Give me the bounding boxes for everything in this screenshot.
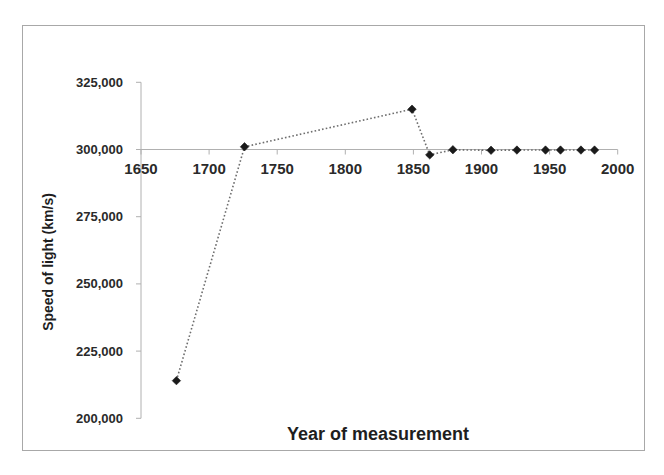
data-point-diamond-icon [426,151,434,159]
x-axis: 16501700175018001850190019502000 [124,150,634,177]
data-point-diamond-icon [541,146,549,154]
x-axis-title: Year of measurement [287,424,469,444]
y-tick-label: 250,000 [76,276,123,291]
y-axis: 200,000225,000250,000275,000300,000325,0… [76,75,141,426]
y-tick-label: 300,000 [76,142,123,157]
x-tick-label: 1950 [533,160,566,177]
x-tick-label: 1700 [192,160,225,177]
x-tick-label: 1800 [329,160,362,177]
data-point-diamond-icon [172,376,180,384]
data-point-diamond-icon [408,105,416,113]
data-point-diamond-icon [487,146,495,154]
x-tick-label: 1850 [397,160,430,177]
series-markers [172,105,599,385]
y-tick-label: 275,000 [76,209,123,224]
data-point-diamond-icon [449,146,457,154]
x-tick-label: 2000 [601,160,634,177]
speed-of-light-chart: 200,000225,000250,000275,000300,000325,0… [0,0,664,475]
x-tick-label: 1750 [261,160,294,177]
data-point-diamond-icon [577,146,585,154]
x-tick-label: 1900 [465,160,498,177]
data-point-diamond-icon [556,146,564,154]
y-tick-label: 200,000 [76,411,123,426]
data-point-diamond-icon [590,146,598,154]
x-tick-label: 1650 [124,160,157,177]
data-point-diamond-icon [513,146,521,154]
y-axis-title: Speed of light (km/s) [40,193,56,331]
y-tick-label: 325,000 [76,75,123,90]
y-tick-label: 225,000 [76,344,123,359]
